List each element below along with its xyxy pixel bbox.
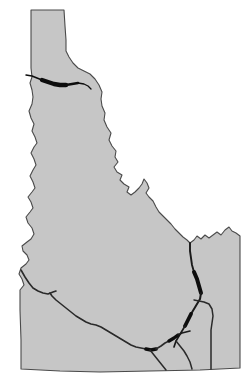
river-snake-bend	[146, 349, 156, 350]
map-container: Idaho Idaho state outline with major riv…	[0, 0, 251, 380]
idaho-map-svg	[0, 0, 251, 380]
